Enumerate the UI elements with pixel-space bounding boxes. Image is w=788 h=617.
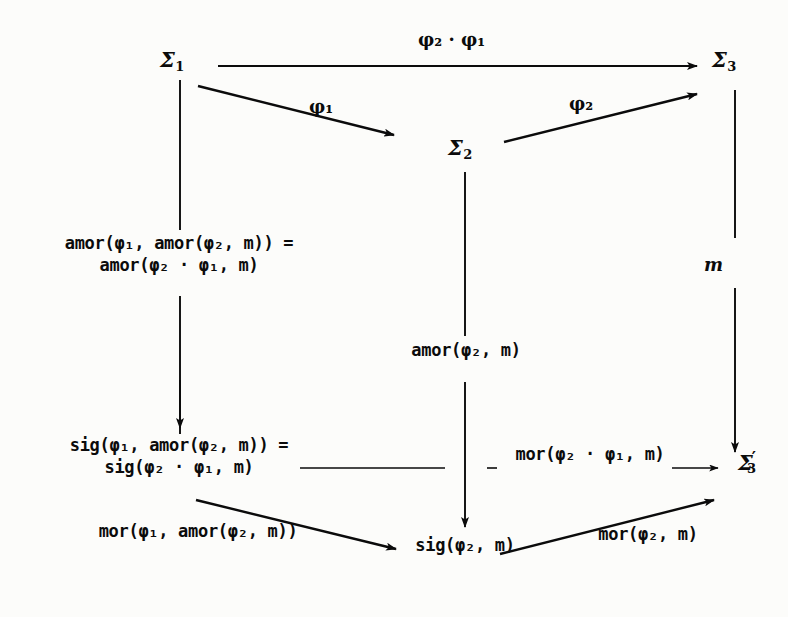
expr-amor-equality: amor(φ₁, amor(φ₂, m)) = amor(φ₂ · φ₁, m): [38, 232, 320, 277]
expr-mor-phi1: mor(φ₁, amor(φ₂, m)): [78, 520, 318, 542]
expr-amor-equality-line-2: amor(φ₂ · φ₁, m): [38, 254, 320, 276]
expr-mor-composite-line-1: mor(φ₂ · φ₁, m): [505, 443, 675, 465]
node-sigma3: Σ3: [712, 46, 736, 75]
node-sigma3-prime: Σ′3: [738, 447, 756, 478]
expr-amor-center-line-1: amor(φ₂, m): [386, 339, 546, 361]
expr-sig-equality-line-2: sig(φ₂ · φ₁, m): [38, 456, 320, 478]
expr-mor-composite: mor(φ₂ · φ₁, m): [505, 443, 675, 465]
expr-sig-phi2: sig(φ₂, m): [390, 534, 540, 556]
node-sigma1-subscript: 1: [175, 59, 184, 74]
arrow-label-phi1: φ₁: [309, 95, 333, 119]
node-sigma3-subscript: 3: [727, 59, 736, 74]
node-sigma3-prime-subscript: 3: [747, 461, 756, 476]
commutative-diagram: Σ1 Σ2 Σ3 Σ′3 φ₂ · φ₁ φ₁ φ₂ m amor(φ₁, am…: [0, 0, 788, 617]
arrow-sigma1-to-sigma2: [198, 86, 394, 135]
node-sigma2-base: Σ: [448, 135, 463, 160]
node-sigma2-subscript: 2: [463, 147, 472, 162]
expr-mor-phi2: mor(φ₂, m): [578, 523, 718, 545]
node-sigma1-base: Σ: [160, 47, 175, 72]
node-sigma2: Σ2: [448, 134, 472, 163]
node-sigma1: Σ1: [160, 46, 184, 75]
expr-sig-equality-line-1: sig(φ₁, amor(φ₂, m)) =: [38, 434, 320, 456]
node-sigma3-base: Σ: [712, 47, 727, 72]
expr-sig-equality: sig(φ₁, amor(φ₂, m)) = sig(φ₂ · φ₁, m): [38, 434, 320, 479]
expr-mor-phi1-line-1: mor(φ₁, amor(φ₂, m)): [78, 520, 318, 542]
arrow-label-m: m: [704, 253, 723, 277]
arrow-sigma2-to-sigma3: [504, 94, 697, 142]
arrow-label-phi2-phi1: φ₂ · φ₁: [418, 28, 485, 52]
expr-amor-equality-line-1: amor(φ₁, amor(φ₂, m)) =: [38, 232, 320, 254]
arrow-label-phi2: φ₂: [569, 92, 593, 116]
expr-mor-phi2-line-1: mor(φ₂, m): [578, 523, 718, 545]
expr-amor-center: amor(φ₂, m): [386, 339, 546, 361]
expr-sig-phi2-line-1: sig(φ₂, m): [390, 534, 540, 556]
